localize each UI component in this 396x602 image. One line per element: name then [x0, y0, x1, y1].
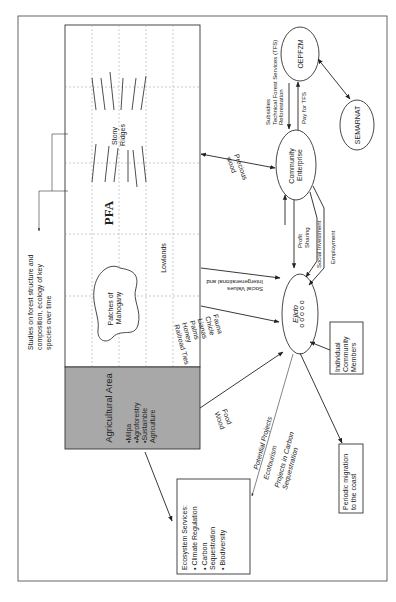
agricultural-area-title: Agricultural Area	[103, 372, 114, 442]
pay-for-tfs-label: Pay for TFS	[301, 92, 307, 124]
node-individual-members: Individual Community Members	[330, 322, 363, 374]
node-community-enterprise: Community Enterprise	[276, 130, 316, 200]
intergenerational-label: Intergenerational and Social Values	[205, 279, 263, 292]
svg-text:o o o o o: o o o o o	[298, 300, 305, 327]
edge-food-wood	[200, 352, 283, 408]
svg-text:Community Enterprise: Community Enterprise	[288, 146, 304, 183]
svg-text:SEMARNAT: SEMARNAT	[354, 105, 361, 144]
edge-ag-to-ecosystem	[145, 452, 172, 521]
carbon-projects-label: Projects in Carbon Sequestration	[273, 429, 304, 491]
studies-bracket: Studies on forest structure and composit…	[27, 134, 68, 350]
stony-ridges-label: Stony Ridges	[111, 124, 127, 146]
lowlands-label: Lowlands	[160, 243, 167, 273]
node-periodic-migration: Periodic migration to the coast	[339, 444, 363, 513]
studies-note: Studies on forest structure and composit…	[27, 253, 53, 350]
mahogany-label: Patches of Mahogany	[107, 290, 123, 325]
land-use-diagram: Stony Ridges PFA Patches of Mahogany Low…	[0, 0, 396, 602]
edge-individual-to-ejido	[310, 342, 330, 350]
food-wood-label: Food Wood	[214, 408, 234, 430]
node-ejido: Ejido o o o o o	[282, 274, 318, 354]
profit-sharing-label: Profit Sharing	[297, 227, 310, 248]
svg-text:OEPFZM: OEPFZM	[297, 39, 304, 68]
node-oepfzm: OEPFZM	[281, 27, 319, 81]
precious-wood-label: Precious wood	[225, 152, 249, 185]
node-ecosystem-services: Ecosystem Services: • Climate Regulation…	[177, 479, 250, 574]
node-semarnat: SEMARNAT	[340, 100, 374, 150]
edge-intergenerational-values	[201, 268, 280, 278]
social-investment-label: Social Investment	[316, 220, 322, 268]
employment-label: Employment	[330, 230, 336, 264]
edge-oepfzm-semarnat	[318, 59, 350, 99]
pfa-label: PFA	[101, 200, 116, 225]
agricultural-area: Agricultural Area •Milpa •Agroforestry •…	[65, 367, 200, 449]
